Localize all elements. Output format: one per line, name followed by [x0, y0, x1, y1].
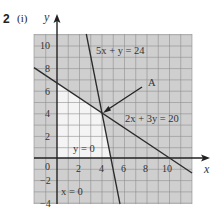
x-tick-8: 8	[143, 163, 148, 174]
x-tick-4: 4	[99, 163, 104, 174]
y-tick-4: 4	[45, 108, 50, 119]
x-tick-10: 10	[162, 163, 172, 174]
label-x-equals-0: x = 0	[61, 186, 83, 197]
x-tick-2: 2	[76, 163, 81, 174]
y-tick-minus-4: −4	[40, 198, 51, 209]
y-tick-2: 2	[45, 131, 50, 142]
linear-programming-graph: y x 0 2 4 6 8 10 10 8 6 4 2 −2 −4 5x + y…	[0, 0, 224, 211]
label-y-equals-0: y = 0	[73, 143, 95, 154]
label-5x-plus-y-24: 5x + y = 24	[96, 45, 145, 56]
y-tick-8: 8	[45, 63, 50, 74]
origin-label: 0	[45, 161, 50, 172]
label-2x-plus-3y-20: 2x + 3y = 20	[125, 113, 179, 124]
x-tick-6: 6	[121, 163, 126, 174]
y-tick-6: 6	[45, 86, 50, 97]
y-tick-10: 10	[40, 40, 50, 51]
y-axis-label: y	[43, 10, 50, 24]
y-tick-minus-2: −2	[40, 175, 51, 186]
label-point-a: A	[148, 77, 156, 88]
x-axis-label: x	[203, 162, 210, 176]
